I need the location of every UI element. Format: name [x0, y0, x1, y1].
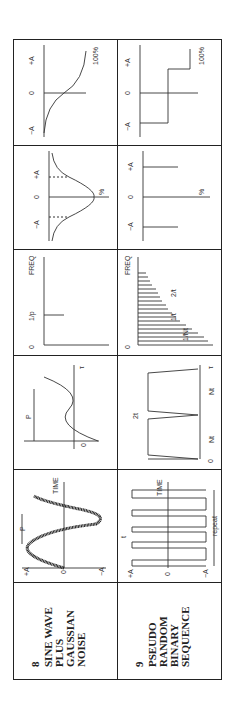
- svg-text:TIME: TIME: [52, 477, 59, 494]
- signal-table: 8 SINE WAVE PLUS GAUSSIAN NOISE +A 0 −A …: [13, 39, 222, 680]
- svg-text:0: 0: [28, 91, 35, 95]
- prbs-time-plot: +A 0 −A TIME t repeat: [118, 469, 221, 582]
- svg-text:100%: 100%: [198, 47, 205, 65]
- table-row-9: 9 PSEUDO RANDOM BINARY SEQUENCE +A 0 −A …: [118, 40, 222, 680]
- cumulative-distribution-cell: 100% −A 0 +A: [118, 40, 222, 146]
- svg-text:FREQ: FREQ: [124, 255, 132, 275]
- svg-text:1/t: 1/t: [170, 313, 177, 321]
- svg-text:−A: −A: [127, 222, 134, 231]
- prbs-psd-plot: 0 1/Nt 1/t 2/t FREQ: [118, 249, 221, 355]
- svg-text:τ: τ: [207, 366, 214, 369]
- sine-noise-amplitude-plot: % −A 0 +A: [14, 145, 117, 249]
- amplitude-distribution-cell: % −A 0 +A: [14, 146, 118, 250]
- rotated-page: 8 SINE WAVE PLUS GAUSSIAN NOISE +A 0 −A …: [13, 40, 220, 680]
- signal-name-cell: 9 PSEUDO RANDOM BINARY SEQUENCE: [118, 583, 222, 680]
- svg-text:+A: +A: [33, 170, 40, 179]
- amplitude-distribution-cell: % −A 0 +A: [118, 146, 222, 250]
- svg-text:τ: τ: [78, 366, 85, 369]
- svg-text:Nt: Nt: [208, 388, 215, 395]
- svg-text:0: 0: [207, 459, 214, 463]
- svg-text:0: 0: [127, 195, 134, 199]
- svg-text:FREQ: FREQ: [28, 255, 36, 275]
- svg-text:%: %: [198, 189, 205, 195]
- svg-text:−A: −A: [33, 220, 40, 229]
- name-line: SEQUENCE: [180, 583, 191, 667]
- row-number: 8: [30, 583, 41, 667]
- svg-text:2t: 2t: [132, 413, 139, 419]
- sine-psd-plot: 0 1/p FREQ: [14, 249, 117, 355]
- svg-text:+A: +A: [127, 569, 134, 578]
- prbs-amplitude-plot: % −A 0 +A: [118, 145, 221, 249]
- svg-text:100%: 100%: [92, 47, 99, 65]
- svg-text:+A: +A: [127, 162, 134, 171]
- prbs-cumulative-plot: 100% −A 0 +A: [118, 39, 221, 145]
- svg-text:P: P: [25, 414, 32, 419]
- psd-cell: 0 1/Nt 1/t 2/t FREQ: [118, 250, 222, 356]
- svg-text:+A: +A: [28, 56, 35, 65]
- noisy-sine-plot: +A 0 −A TIME P: [14, 469, 117, 582]
- svg-text:TIME: TIME: [156, 479, 163, 496]
- svg-text:%: %: [98, 189, 105, 195]
- svg-text:−A: −A: [28, 126, 35, 135]
- cumulative-distribution-cell: 100% −A 0 +A: [14, 40, 118, 146]
- svg-text:0: 0: [33, 195, 40, 199]
- svg-text:1/p: 1/p: [28, 311, 36, 321]
- time-history-cell: +A 0 −A TIME t repeat: [118, 470, 222, 583]
- name-line: NOISE: [76, 583, 87, 667]
- svg-text:P: P: [19, 526, 26, 531]
- svg-text:0: 0: [124, 91, 131, 95]
- autocorrelation-cell: 0 τ 2t Nt Nt: [118, 356, 222, 470]
- svg-text:−A: −A: [124, 122, 131, 131]
- svg-text:t: t: [120, 536, 127, 538]
- sine-autocorrelation-plot: 0 τ P: [14, 355, 117, 469]
- svg-text:0: 0: [60, 570, 67, 574]
- svg-text:0: 0: [28, 345, 35, 349]
- table-row-8: 8 SINE WAVE PLUS GAUSSIAN NOISE +A 0 −A …: [14, 40, 118, 680]
- svg-text:1/Nt: 1/Nt: [182, 328, 189, 341]
- autocorrelation-cell: 0 τ P: [14, 356, 118, 470]
- svg-text:repeat: repeat: [211, 516, 219, 536]
- svg-text:0: 0: [164, 572, 171, 576]
- svg-text:0: 0: [80, 443, 87, 447]
- psd-cell: 0 1/p FREQ: [14, 250, 118, 356]
- svg-text:2/t: 2/t: [170, 289, 177, 297]
- svg-text:+A: +A: [124, 58, 131, 67]
- svg-text:Nt: Nt: [208, 436, 215, 443]
- row-number: 9: [134, 583, 145, 667]
- signal-name-cell: 8 SINE WAVE PLUS GAUSSIAN NOISE: [14, 583, 118, 680]
- sine-noise-cumulative-plot: 100% −A 0 +A: [14, 39, 117, 145]
- svg-text:−A: −A: [202, 569, 209, 578]
- prbs-autocorrelation-plot: 0 τ 2t Nt Nt: [118, 355, 221, 469]
- svg-text:0: 0: [124, 345, 131, 349]
- time-history-cell: +A 0 −A TIME P: [14, 470, 118, 583]
